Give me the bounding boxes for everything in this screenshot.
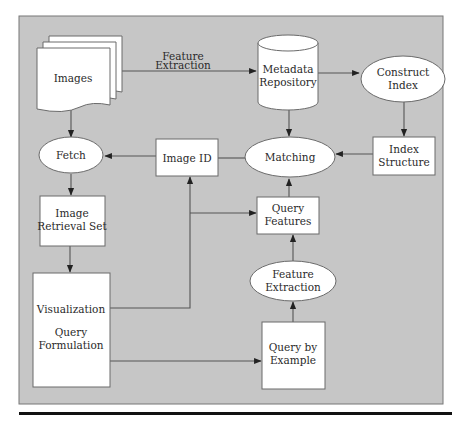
node-image-retrieval-set: Image Retrieval Set [37,196,107,246]
node-query-features-line2: Features [265,215,312,227]
bottom-rule [19,412,452,415]
node-query-by-example: Query by Example [262,322,325,389]
node-metadata-repository: Metadata Repository [258,35,318,110]
node-retrieval-set-line2: Retrieval Set [37,220,107,232]
node-construct-index-line1: Construct [377,66,430,78]
node-image-id-label: Image ID [162,152,211,164]
node-feature-extraction-line1: Feature [272,268,313,280]
node-visualization-query-formulation: Visualization Query Formulation [33,273,110,387]
node-matching: Matching [245,137,335,177]
node-visualization-line3: Formulation [38,339,103,351]
node-construct-index: Construct Index [361,56,445,102]
node-index-structure-line2: Structure [378,156,429,168]
edge-label-feature-extraction-line2: Extraction [155,59,211,71]
node-construct-index-line2: Index [388,79,418,91]
node-visualization-line2: Query [55,326,88,338]
cylinder-top [258,35,318,51]
node-feature-extraction: Feature Extraction [250,261,336,301]
node-matching-label: Matching [265,151,316,163]
node-query-features: Query Features [257,197,319,234]
node-images: Images [37,36,122,112]
node-retrieval-set-line1: Image [55,207,88,219]
node-query-by-example-line1: Query by [269,341,318,353]
node-metadata-label-line1: Metadata [263,63,314,75]
node-index-structure: Index Structure [373,137,435,175]
node-images-label: Images [54,72,93,84]
node-query-features-line1: Query [272,202,305,214]
node-fetch: Fetch [39,137,103,173]
node-index-structure-line1: Index [389,143,419,155]
node-feature-extraction-line2: Extraction [265,281,321,293]
node-image-id: Image ID [156,139,218,176]
node-fetch-label: Fetch [56,149,86,161]
node-visualization-line1: Visualization [36,303,106,315]
image-retrieval-flow-diagram: Feature Extraction Images Metadata Repos… [0,0,470,423]
node-metadata-label-line2: Repository [259,76,316,88]
node-query-by-example-line2: Example [270,354,316,366]
